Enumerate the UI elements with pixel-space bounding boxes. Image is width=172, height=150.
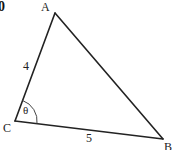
angle-label-theta: θ [23,104,28,116]
side-label-cb: 5 [86,131,92,145]
side-ab [55,13,163,139]
side-label-ca: 4 [23,59,29,73]
vertex-label-c: C [3,121,11,135]
triangle-diagram: 0 A C B 4 5 θ [0,0,172,150]
side-ca [15,13,55,121]
question-number: 0 [0,0,5,14]
vertex-label-b: B [164,140,172,150]
vertex-label-a: A [41,0,50,14]
